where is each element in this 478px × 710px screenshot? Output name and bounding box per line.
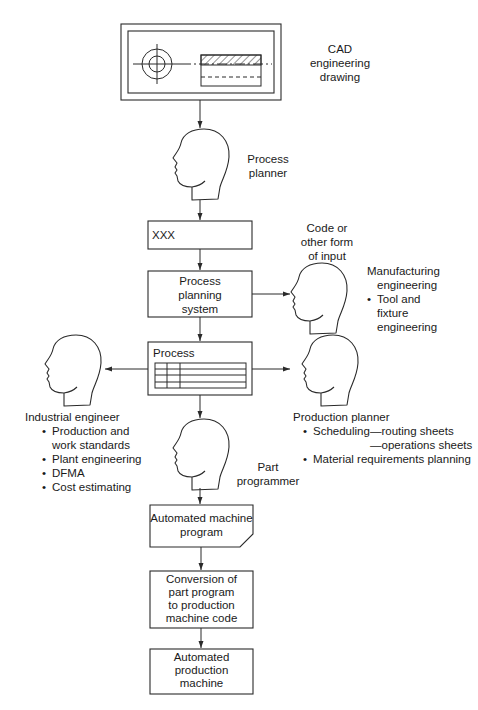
machine-program-text: Automated machine program xyxy=(150,511,253,539)
code-input-label: Code or other form of input xyxy=(282,221,372,263)
cad-label-line: engineering xyxy=(295,56,385,70)
bullet-item: Plant engineering xyxy=(42,452,165,466)
part-programmer-label: Part programmer xyxy=(228,460,308,488)
cad-drawing-frame xyxy=(121,24,281,100)
process-planner-label: Process planner xyxy=(233,152,303,180)
cad-label-line: CAD xyxy=(295,42,385,56)
bullet-item: Cost estimating xyxy=(42,480,165,494)
planning-system-text: Process planning system xyxy=(148,274,252,316)
process-sheet-title: Process xyxy=(153,346,195,360)
cad-label-line: drawing xyxy=(295,70,385,84)
bullet-item: Tool and xyxy=(367,292,477,306)
process-planner-head-icon xyxy=(173,129,229,200)
cad-label: CAD engineering drawing xyxy=(295,42,385,84)
part-programmer-head-icon xyxy=(173,419,229,490)
production-planner-label: Production planner Scheduling—routing sh… xyxy=(293,410,478,466)
xxx-box-text: XXX xyxy=(152,228,175,242)
production-planner-head-icon xyxy=(302,335,358,406)
conversion-text: Conversion of part program to production… xyxy=(150,573,253,625)
industrial-engineer-head-icon xyxy=(45,335,101,406)
manufacturing-engineering-label: Manufacturing engineering Tool and fixtu… xyxy=(367,264,477,334)
production-machine-text: Automated production machine xyxy=(150,651,253,690)
manufacturing-engineer-head-icon xyxy=(291,263,347,334)
industrial-engineer-label: Industrial engineer Production and work … xyxy=(25,410,165,494)
bullet-item: DFMA xyxy=(42,466,165,480)
bullet-item: Scheduling—routing sheets xyxy=(303,424,478,438)
bullet-item: Material requirements planning xyxy=(303,452,478,466)
bullet-item: Production and xyxy=(42,424,165,438)
